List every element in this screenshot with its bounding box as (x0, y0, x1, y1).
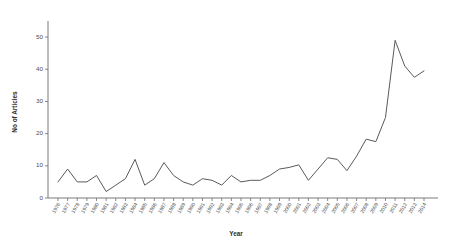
x-tick-group: 1976197719781979198019811982198319841985… (50, 198, 427, 214)
x-tick-label: 2006 (339, 201, 350, 214)
x-tick-label: 1996 (243, 201, 254, 214)
y-axis-title: No of Articles (11, 91, 18, 133)
x-tick-label: 2013 (407, 201, 418, 214)
x-tick-label: 1986 (147, 201, 158, 214)
x-tick-label: 1987 (156, 201, 167, 214)
x-tick-label: 2012 (397, 201, 408, 214)
x-tick-label: 2010 (378, 201, 389, 214)
x-axis-title: Year (229, 230, 243, 237)
x-tick-label: 1982 (108, 201, 119, 214)
x-tick-label: 1995 (233, 201, 244, 214)
x-tick-label: 2001 (291, 201, 302, 214)
x-tick-label: 2009 (368, 201, 379, 214)
x-tick-label: 1979 (79, 201, 90, 214)
x-axis: 1976197719781979198019811982198319841985… (48, 198, 438, 214)
x-tick-label: 1977 (60, 201, 71, 214)
x-tick-label: 1997 (253, 201, 264, 214)
chart-figure: 01020304050 1976197719781979198019811982… (0, 0, 459, 242)
data-series-line (58, 40, 424, 191)
x-tick-label: 2002 (301, 201, 312, 214)
x-tick-label: 2005 (330, 201, 341, 214)
y-axis: 01020304050 (36, 21, 48, 201)
x-tick-label: 2003 (311, 201, 322, 214)
x-tick-label: 1989 (176, 201, 187, 214)
x-tick-label: 1991 (195, 201, 206, 214)
x-tick-label: 1994 (224, 201, 235, 214)
x-tick-label: 1980 (89, 201, 100, 214)
x-tick-label: 2008 (359, 201, 370, 214)
x-tick-label: 1978 (70, 201, 81, 214)
x-tick-label: 2004 (320, 201, 331, 214)
x-tick-label: 1981 (99, 201, 110, 214)
y-tick-label: 0 (40, 194, 44, 201)
y-tick-label: 50 (36, 33, 43, 40)
x-tick-label: 1985 (137, 201, 148, 214)
y-tick-label: 10 (36, 161, 43, 168)
x-tick-label: 2014 (416, 201, 427, 214)
x-tick-label: 1992 (205, 201, 216, 214)
y-tick-label: 20 (36, 129, 43, 136)
x-tick-label: 1999 (272, 201, 283, 214)
x-tick-label: 1993 (214, 201, 225, 214)
x-tick-label: 1998 (262, 201, 273, 214)
x-tick-label: 1976 (50, 201, 61, 214)
y-tick-group: 01020304050 (36, 33, 48, 201)
x-tick-label: 1990 (185, 201, 196, 214)
y-tick-label: 30 (36, 97, 43, 104)
x-tick-label: 2007 (349, 201, 360, 214)
y-tick-label: 40 (36, 65, 43, 72)
x-tick-label: 1988 (166, 201, 177, 214)
x-tick-label: 1983 (118, 201, 129, 214)
line-chart: 01020304050 1976197719781979198019811982… (0, 0, 459, 242)
x-tick-label: 2000 (282, 201, 293, 214)
x-tick-label: 1984 (128, 201, 139, 214)
